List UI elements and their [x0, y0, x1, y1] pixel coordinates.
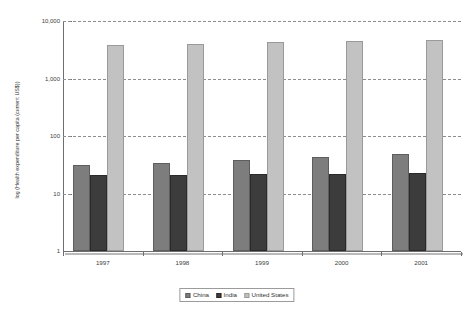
bar-india-1998	[170, 175, 187, 251]
legend-swatch-icon-india	[216, 293, 221, 298]
bar-china-1997	[73, 165, 90, 251]
legend-item-india[interactable]: India	[216, 291, 237, 299]
x-axis-tick-mark	[63, 252, 64, 256]
x-axis-tick-labels: 19971998199920002001	[63, 258, 461, 272]
bar-china-1998	[153, 163, 170, 251]
legend-item-usa[interactable]: United States	[244, 291, 289, 299]
plot-area	[63, 21, 461, 251]
bar-usa-2000	[346, 41, 363, 251]
x-axis-tick-label-1997: 1997	[63, 258, 143, 268]
x-axis-tick-mark	[381, 252, 382, 256]
x-axis-baseline-shadow	[65, 253, 463, 255]
x-axis-tick-label-2001: 2001	[381, 258, 461, 268]
legend-label: United States	[251, 291, 288, 299]
x-axis-tick-label-2000: 2000	[302, 258, 382, 268]
x-axis-tick-mark	[461, 252, 462, 256]
bar-china-2000	[312, 157, 329, 251]
bar-china-1999	[233, 160, 250, 251]
gridline-10000	[63, 21, 461, 22]
x-axis-tick-label-1998: 1998	[143, 258, 223, 268]
bar-india-1997	[90, 175, 107, 251]
bar-usa-1999	[267, 42, 284, 251]
bar-china-2001	[392, 154, 409, 251]
x-axis-tick-mark	[302, 252, 303, 256]
bar-india-2000	[329, 174, 346, 251]
bar-usa-1998	[187, 44, 204, 251]
legend-swatch-icon-china	[185, 293, 190, 298]
bar-usa-2001	[426, 40, 443, 251]
legend-item-china[interactable]: China	[185, 291, 209, 299]
x-axis-tick-mark	[143, 252, 144, 256]
y-axis-tick-label: 1,000	[12, 76, 60, 82]
bar-india-2001	[409, 173, 426, 251]
x-axis-tick-label-1999: 1999	[222, 258, 302, 268]
legend-label: India	[224, 291, 237, 299]
y-axis-tick-labels: 1101001,00010,000	[8, 0, 60, 313]
gridline-1	[63, 251, 461, 252]
y-axis-tick-label: 10,000	[12, 18, 60, 24]
y-axis-tick-label: 100	[12, 133, 60, 139]
bar-chart: log (Health expenditure per capita (curr…	[0, 0, 474, 313]
bar-india-1999	[250, 174, 267, 251]
legend: ChinaIndiaUnited States	[179, 288, 294, 302]
x-axis-tick-mark	[222, 252, 223, 256]
bar-usa-1997	[107, 45, 124, 251]
legend-label: China	[193, 291, 209, 299]
y-axis-tick-label: 1	[12, 248, 60, 254]
y-axis-tick-label: 10	[12, 191, 60, 197]
legend-swatch-icon-usa	[244, 293, 249, 298]
